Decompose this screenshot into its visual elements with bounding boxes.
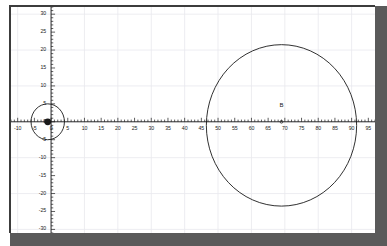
x-tick-label: 15 (98, 126, 104, 131)
plot-svg (11, 7, 375, 233)
y-tick-label: 30 (11, 12, 46, 17)
y-tick-label: -15 (11, 173, 46, 178)
y-tick-label: -10 (11, 155, 46, 160)
frame-right-shadow (375, 6, 387, 246)
label-b: B (279, 102, 283, 108)
x-tick-label: 45 (199, 126, 205, 131)
x-tick-label: 70 (282, 126, 288, 131)
x-tick-label: 25 (132, 126, 138, 131)
y-tick-label: -25 (11, 209, 46, 214)
x-tick-label: 60 (249, 126, 255, 131)
plot-shapes (31, 45, 357, 206)
x-tick-label: 55 (232, 126, 238, 131)
x-tick-label: 10 (82, 126, 88, 131)
frame-bottom-shadow (10, 233, 387, 246)
y-tick-label: -5 (11, 137, 46, 142)
x-tick-label: 80 (315, 126, 321, 131)
x-tick-label: 65 (265, 126, 271, 131)
y-tick-label: 15 (11, 65, 46, 70)
x-tick-label: 90 (349, 126, 355, 131)
axis-ticks (11, 7, 375, 233)
y-tick-label: 0 (11, 119, 46, 124)
grid-lines (11, 7, 375, 233)
x-tick-label: 20 (115, 126, 121, 131)
x-tick-label: -5 (32, 126, 36, 131)
x-tick-label: 95 (366, 126, 372, 131)
x-tick-label: 75 (299, 126, 305, 131)
axis-lines (11, 7, 375, 233)
x-tick-label: 35 (165, 126, 171, 131)
y-tick-label: 10 (11, 83, 46, 88)
x-tick-label: -10 (14, 126, 21, 131)
x-tick-label: 85 (332, 126, 338, 131)
x-tick-label: 5 (66, 126, 69, 131)
figure-container: -10-505101520253035404550556065707580859… (0, 0, 387, 246)
x-tick-label: 30 (148, 126, 154, 131)
x-tick-label: 0 (50, 126, 53, 131)
x-tick-label: 50 (215, 126, 221, 131)
y-tick-label: -30 (11, 227, 46, 232)
x-tick-label: 40 (182, 126, 188, 131)
y-tick-label: -20 (11, 191, 46, 196)
y-tick-label: 20 (11, 47, 46, 52)
y-tick-label: 25 (11, 30, 46, 35)
y-tick-label: 5 (11, 101, 46, 106)
plot-canvas: -10-505101520253035404550556065707580859… (11, 7, 375, 233)
